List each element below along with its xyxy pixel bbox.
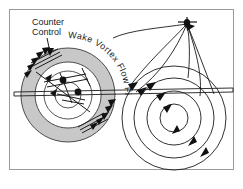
wake-vortex-diagram: Counter Control Wake Vortex Flow Field [0, 0, 243, 189]
vortex-core-dot-left [60, 77, 67, 84]
diagram-canvas: Counter Control Wake Vortex Flow Field [0, 0, 243, 189]
counter-control-label-line1: Counter [32, 17, 64, 27]
counter-control-label-line2: Control [32, 27, 61, 37]
